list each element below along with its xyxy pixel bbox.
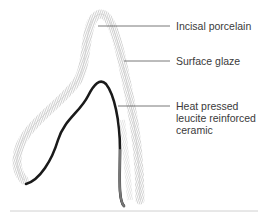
label-core-line-2: leucite reinforced <box>176 112 256 124</box>
label-surface-glaze: Surface glaze <box>176 55 240 67</box>
label-core-line-1: Heat pressed <box>176 100 256 112</box>
outer-porcelain-layer <box>17 14 140 200</box>
inner-wall-shading <box>122 120 130 200</box>
label-incisal-porcelain: Incisal porcelain <box>176 20 251 32</box>
label-core-line-3: ceramic <box>176 124 256 136</box>
core-coping-layer <box>26 82 124 206</box>
label-core-ceramic: Heat pressed leucite reinforced ceramic <box>176 100 256 136</box>
